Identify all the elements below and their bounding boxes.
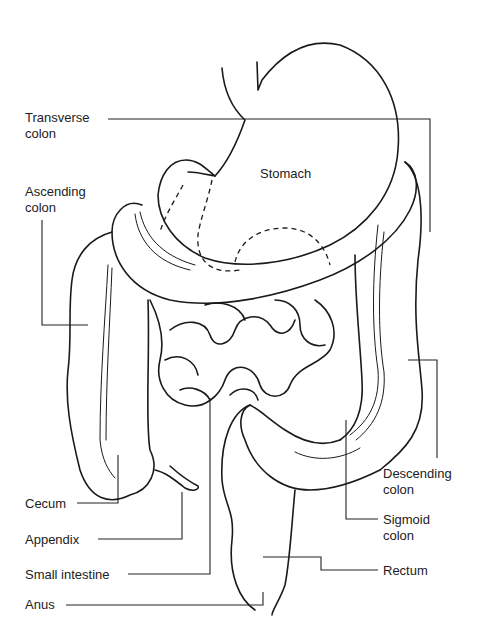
label-rectum: Rectum <box>383 563 428 579</box>
label-appendix: Appendix <box>25 532 79 548</box>
leader-ascending-colon <box>42 220 88 325</box>
rectum-shape <box>222 405 295 615</box>
label-cecum: Cecum <box>25 496 66 512</box>
leader-anus <box>66 592 263 605</box>
label-transverse-colon: Transverse colon <box>25 110 90 142</box>
sigmoid-colon-shape <box>241 405 380 490</box>
label-anus: Anus <box>25 597 55 613</box>
label-small-intestine: Small intestine <box>25 567 110 583</box>
leader-rectum <box>263 557 378 570</box>
ascending-colon-shape <box>67 232 154 500</box>
transverse-colon-shape <box>112 162 416 303</box>
leader-descending-colon <box>408 360 437 458</box>
stomach-shape <box>158 43 398 271</box>
leader-lines <box>42 119 437 605</box>
small-intestine-shape <box>150 300 334 406</box>
label-descending-colon: Descending colon <box>383 466 452 498</box>
descending-colon-shape <box>340 162 422 470</box>
label-sigmoid-colon: Sigmoid colon <box>383 512 430 544</box>
appendix-shape <box>155 466 198 490</box>
label-stomach: Stomach <box>260 166 311 182</box>
label-ascending-colon: Ascending colon <box>25 184 86 216</box>
